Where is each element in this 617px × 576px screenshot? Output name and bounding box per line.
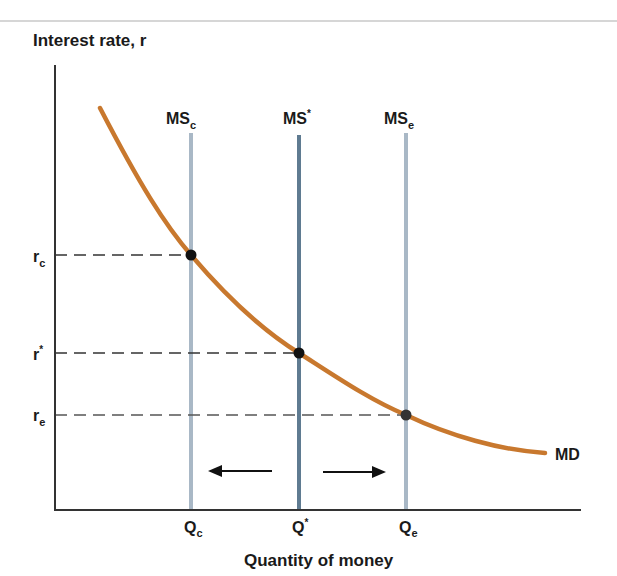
money-demand-curve	[100, 108, 545, 453]
equilibrium-point-star	[294, 348, 305, 359]
equilibrium-point-e	[401, 410, 412, 421]
x-tick-qstar: Q*	[292, 517, 308, 536]
left-arrow-icon	[208, 465, 272, 477]
y-axis-title: Interest rate, r	[33, 31, 147, 50]
y-tick-rc: rc	[33, 248, 45, 269]
y-tick-rstar: r*	[33, 344, 43, 363]
money-market-chart: Interest rate, r MSc MS* MSe MD rc r*	[0, 0, 617, 576]
x-tick-qc: Qc	[184, 519, 203, 539]
right-arrow-icon	[323, 466, 386, 478]
equilibrium-point-c	[186, 250, 197, 261]
ms-e-label: MSe	[384, 110, 414, 131]
ms-c-label: MSc	[166, 110, 196, 131]
y-tick-re: re	[33, 407, 45, 428]
x-axis-title: Quantity of money	[244, 551, 394, 570]
ms-star-label: MS*	[283, 108, 311, 127]
x-tick-qe: Qe	[399, 519, 418, 539]
md-label: MD	[555, 446, 580, 463]
